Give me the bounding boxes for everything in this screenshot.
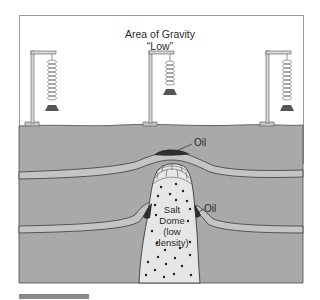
salt-label-line3: (low xyxy=(163,226,181,237)
scale-bar xyxy=(19,294,89,299)
title-line-2: “Low” xyxy=(0,40,320,52)
title-line-1: Area of Gravity xyxy=(0,28,320,40)
gravity-low-title: Area of Gravity “Low” xyxy=(0,28,320,52)
oil-side-label: Oil xyxy=(204,203,216,214)
salt-label-line2: Dome xyxy=(159,215,184,226)
salt-dome-gravity-diagram: Oil Oil Salt Dome (low density) Area of … xyxy=(0,0,320,300)
salt-label-line1: Salt xyxy=(164,204,181,215)
salt-label-line4: density) xyxy=(155,237,188,248)
oil-top-label: Oil xyxy=(194,137,206,148)
